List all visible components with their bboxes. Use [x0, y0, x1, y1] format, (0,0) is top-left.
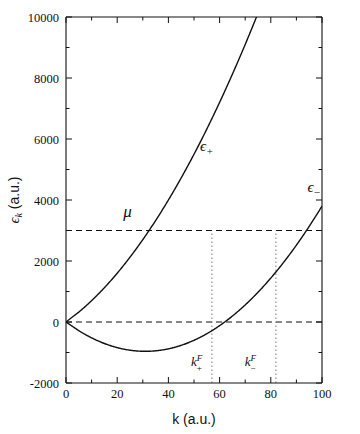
curve-label-ϵ-: ϵ− [308, 179, 321, 198]
x-tick-label: 80 [265, 387, 278, 401]
y-tick-label: 10000 [28, 11, 59, 25]
kF-minus-label: kF− [245, 353, 257, 373]
x-axis-title: k (a.u.) [172, 411, 216, 427]
y-tick-label: -2000 [30, 377, 59, 391]
curve-label-ϵ+: ϵ+ [200, 138, 213, 157]
x-tick-label: 20 [111, 387, 124, 401]
axis-ticks [66, 17, 322, 383]
kF-plus-label: kF+ [191, 353, 203, 373]
x-tick-label: 100 [313, 387, 332, 401]
y-axis-title-text: ϵk (a.u.) [6, 176, 24, 223]
dashed-reference-lines [66, 231, 322, 323]
plot-annotations: ϵ+ϵ−μkF+kF− [122, 138, 321, 373]
dispersion-curves [66, 0, 322, 351]
y-axis-title: ϵk (a.u.) [6, 176, 24, 223]
y-tick-label: 8000 [34, 72, 59, 86]
axis-tick-labels: -20000200040006000800010000020406080100 [28, 11, 332, 402]
y-tick-label: 4000 [34, 194, 59, 208]
x-tick-label: 60 [213, 387, 226, 401]
figure-root: -20000200040006000800010000020406080100 … [0, 0, 360, 434]
x-tick-label: 0 [63, 387, 69, 401]
x-tick-label: 40 [162, 387, 175, 401]
curve-ϵ+ [66, 0, 322, 322]
y-tick-label: 2000 [34, 255, 59, 269]
mu-label: μ [122, 202, 132, 221]
axes-frame [66, 17, 322, 383]
curve-ϵ- [66, 206, 322, 351]
y-tick-label: 6000 [34, 133, 59, 147]
y-tick-label: 0 [53, 316, 59, 330]
epsilon-k-dispersion-plot: -20000200040006000800010000020406080100 … [0, 0, 360, 434]
